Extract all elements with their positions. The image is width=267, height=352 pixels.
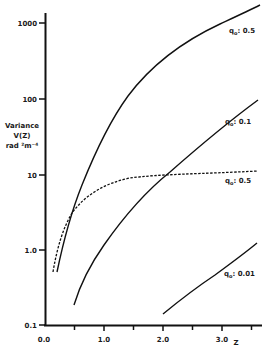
variance-chart: 1000 100 10 1.0 0.1 Variance V(Z) rad ²m… xyxy=(0,0,267,352)
label-q0-0.1-solid: qo: 0.1 xyxy=(225,118,251,127)
y-axis-label: Variance V(Z) rad ²m⁻⁴ xyxy=(5,122,39,150)
y-axis: 1000 100 10 1.0 0.1 xyxy=(18,13,46,330)
y-tick-10: 10 xyxy=(27,172,37,180)
curve-q0-0.5-dashed xyxy=(53,171,258,272)
y-tick-1: 1.0 xyxy=(25,247,38,255)
svg-text:qo: 0.5: qo: 0.5 xyxy=(229,27,255,36)
y-tick-1000: 1000 xyxy=(18,20,38,28)
svg-text:qo: 0.1: qo: 0.1 xyxy=(225,118,251,127)
y-tick-0-1: 0.1 xyxy=(25,322,38,330)
x-tick-2: 2.0 xyxy=(157,336,170,344)
curve-q0-0.01-solid xyxy=(163,243,257,314)
label-q0-0.5-solid: qo: 0.5 xyxy=(229,27,255,36)
x-axis-label: Z xyxy=(233,339,238,347)
y-tick-100: 100 xyxy=(22,96,37,104)
x-tick-1: 1.0 xyxy=(98,336,111,344)
x-tick-0: 0.0 xyxy=(38,336,51,344)
y-label-line1: Variance xyxy=(5,122,39,130)
x-axis: 0.0 1.0 2.0 3.0 Z xyxy=(38,325,262,347)
svg-text:qo: 0.01: qo: 0.01 xyxy=(224,270,255,279)
x-tick-3: 3.0 xyxy=(216,336,229,344)
label-q0-0.01-solid: qo: 0.01 xyxy=(224,270,255,279)
y-label-line3: rad ²m⁻⁴ xyxy=(6,142,39,150)
svg-text:qo: 0.5: qo: 0.5 xyxy=(225,177,251,186)
y-label-line2: V(Z) xyxy=(14,132,31,140)
label-q0-0.5-dashed: qo: 0.5 xyxy=(225,177,251,186)
curve-q0-0.5-solid xyxy=(57,5,260,272)
